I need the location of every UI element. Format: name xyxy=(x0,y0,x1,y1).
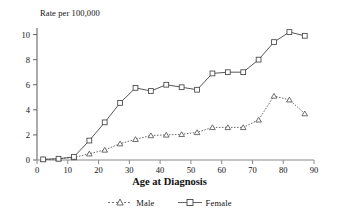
x-axis-ticks: 0102030405060708090 xyxy=(35,160,318,175)
data-point-marker xyxy=(241,70,246,75)
chart-container: Rate per 100,000 0246810 010203040506070… xyxy=(0,0,339,221)
data-point-marker xyxy=(102,147,108,152)
legend-swatch-triangle-icon xyxy=(107,197,133,208)
plot-area: 0246810 0102030405060708090 xyxy=(0,0,339,221)
data-point-marker xyxy=(256,117,262,122)
data-point-marker xyxy=(179,85,184,90)
data-series-layer xyxy=(40,30,307,162)
legend-item-male: Male xyxy=(107,197,154,208)
data-point-marker xyxy=(271,93,277,98)
data-point-marker xyxy=(148,133,154,138)
series-female xyxy=(41,30,307,162)
data-point-marker xyxy=(72,154,77,159)
y-tick-label: 4 xyxy=(26,105,31,115)
data-point-marker xyxy=(179,132,185,137)
y-axis-ticks: 0246810 xyxy=(22,30,38,165)
x-tick-label: 40 xyxy=(156,165,165,175)
chart-legend: Male Female xyxy=(0,197,339,208)
x-tick-label: 90 xyxy=(310,165,319,175)
data-point-marker xyxy=(164,82,169,87)
legend-label-male: Male xyxy=(136,198,154,208)
axis-lines xyxy=(37,28,314,160)
data-point-marker xyxy=(287,97,293,102)
x-tick-label: 70 xyxy=(248,165,257,175)
legend-label-female: Female xyxy=(206,198,232,208)
data-point-marker xyxy=(210,71,215,76)
data-point-marker xyxy=(87,138,92,143)
data-point-marker xyxy=(148,89,153,94)
legend-item-female: Female xyxy=(177,197,232,208)
x-tick-label: 0 xyxy=(35,165,39,175)
data-point-marker xyxy=(118,101,123,106)
x-tick-label: 10 xyxy=(64,165,73,175)
data-point-marker xyxy=(302,111,308,116)
x-tick-label: 60 xyxy=(217,165,226,175)
x-tick-label: 80 xyxy=(279,165,288,175)
y-tick-label: 6 xyxy=(26,80,30,90)
data-point-marker xyxy=(56,156,61,161)
x-tick-label: 50 xyxy=(187,165,196,175)
x-tick-label: 20 xyxy=(94,165,103,175)
data-point-marker xyxy=(225,70,230,75)
data-point-marker xyxy=(195,87,200,92)
legend-swatch-square-icon xyxy=(177,197,203,208)
y-tick-label: 10 xyxy=(22,30,31,40)
y-tick-label: 8 xyxy=(26,55,30,65)
series-male xyxy=(40,93,307,161)
x-axis-title: Age at Diagnosis xyxy=(0,176,339,187)
y-tick-label: 2 xyxy=(26,130,30,140)
x-tick-label: 30 xyxy=(125,165,134,175)
y-tick-label: 0 xyxy=(26,155,30,165)
data-point-marker xyxy=(256,57,261,62)
data-point-marker xyxy=(102,120,107,125)
data-point-marker xyxy=(133,85,138,90)
data-point-marker xyxy=(302,33,307,38)
data-point-marker xyxy=(272,40,277,45)
data-point-marker xyxy=(287,30,292,35)
data-point-marker xyxy=(41,157,46,162)
